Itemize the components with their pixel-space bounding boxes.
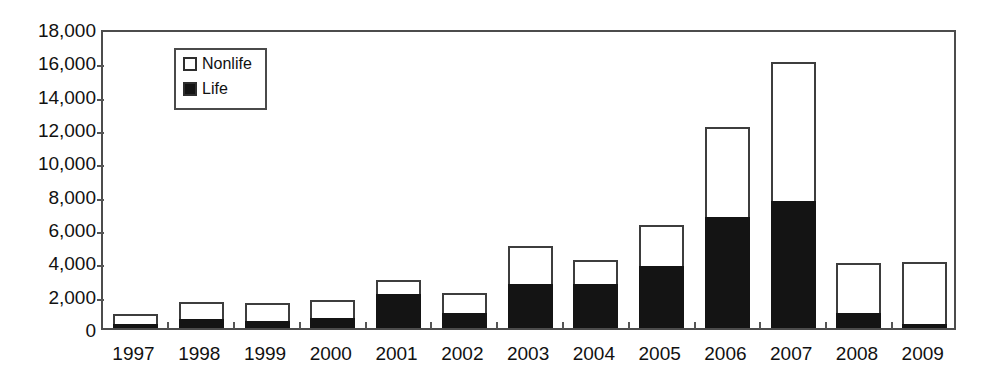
bar-segment-life (508, 284, 553, 328)
x-axis-tick-label: 1999 (235, 344, 295, 364)
y-axis: 02,0004,0006,0008,00010,00012,00014,0001… (0, 0, 96, 386)
y-axis-tick-mark (97, 232, 104, 234)
bar-segment-life (902, 324, 947, 328)
legend-item-nonlife: Nonlife (183, 56, 252, 72)
x-axis-tick-label: 2009 (893, 344, 953, 364)
bar-segment-life (771, 201, 816, 328)
x-axis-tick-label: 2007 (761, 344, 821, 364)
x-axis-tick-label: 1998 (169, 344, 229, 364)
legend-item-life: Life (183, 81, 228, 97)
y-axis-tick-mark (97, 165, 104, 167)
y-axis-tick-label: 18,000 (4, 21, 96, 40)
y-axis-tick-label: 4,000 (4, 254, 96, 273)
x-axis-tick-label: 2000 (301, 344, 361, 364)
x-axis-tick-mark (299, 322, 301, 329)
y-axis-tick-label: 14,000 (4, 88, 96, 107)
bar-1997 (113, 314, 158, 328)
bar-segment-life (113, 324, 158, 328)
bar-2004 (573, 260, 618, 328)
x-axis-tick-mark (694, 322, 696, 329)
bar-2008 (836, 263, 881, 328)
bar-segment-nonlife (902, 262, 947, 328)
y-axis-tick-label: 0 (4, 321, 96, 340)
y-axis-tick-label: 12,000 (4, 121, 96, 140)
x-axis-tick-mark (430, 322, 432, 329)
bar-1998 (179, 302, 224, 328)
x-axis-tick-mark (825, 322, 827, 329)
x-axis-tick-label: 2002 (432, 344, 492, 364)
filled-square-icon (183, 82, 197, 96)
x-axis-tick-mark (496, 322, 498, 329)
bar-segment-life (836, 313, 881, 328)
bar-2009 (902, 262, 947, 328)
y-axis-tick-label: 8,000 (4, 188, 96, 207)
x-axis-tick-label: 2003 (498, 344, 558, 364)
x-axis-tick-label: 2005 (630, 344, 690, 364)
x-axis-tick-label: 2004 (564, 344, 624, 364)
y-axis-tick-mark (97, 265, 104, 267)
y-axis-tick-mark (97, 132, 104, 134)
bar-segment-life (442, 313, 487, 328)
bar-2007 (771, 62, 816, 328)
y-axis-tick-label: 6,000 (4, 221, 96, 240)
x-axis-tick-mark (562, 322, 564, 329)
chart-legend: Nonlife Life (174, 48, 267, 110)
x-axis-tick-mark (365, 322, 367, 329)
y-axis-tick-label: 10,000 (4, 154, 96, 173)
y-axis-tick-mark (97, 199, 104, 201)
x-axis-tick-mark (759, 322, 761, 329)
y-axis-tick-mark (97, 99, 104, 101)
legend-item-label: Nonlife (202, 56, 252, 72)
bar-segment-life (179, 319, 224, 328)
bar-segment-life (573, 284, 618, 328)
x-axis-tick-label: 2008 (827, 344, 887, 364)
bar-segment-life (310, 318, 355, 328)
bar-2003 (508, 246, 553, 328)
bar-2001 (376, 280, 421, 328)
hollow-square-icon (183, 57, 197, 71)
y-axis-tick-label: 16,000 (4, 54, 96, 73)
x-axis-tick-mark (628, 322, 630, 329)
bar-1999 (245, 303, 290, 328)
bar-2005 (639, 225, 684, 328)
bar-2000 (310, 300, 355, 328)
bar-2002 (442, 293, 487, 328)
bar-segment-life (639, 266, 684, 328)
x-axis-tick-label: 2006 (695, 344, 755, 364)
legend-item-label: Life (202, 81, 228, 97)
bar-segment-life (705, 217, 750, 328)
y-axis-tick-mark (97, 65, 104, 67)
x-axis-tick-label: 1997 (104, 344, 164, 364)
y-axis-tick-label: 2,000 (4, 288, 96, 307)
x-axis-tick-label: 2001 (367, 344, 427, 364)
bar-2006 (705, 127, 750, 328)
x-axis-tick-mark (167, 322, 169, 329)
x-axis-tick-mark (233, 322, 235, 329)
stacked-bar-chart: 02,0004,0006,0008,00010,00012,00014,0001… (0, 0, 982, 386)
bar-segment-life (376, 294, 421, 328)
bar-segment-life (245, 321, 290, 328)
x-axis-tick-mark (891, 322, 893, 329)
y-axis-tick-mark (97, 299, 104, 301)
